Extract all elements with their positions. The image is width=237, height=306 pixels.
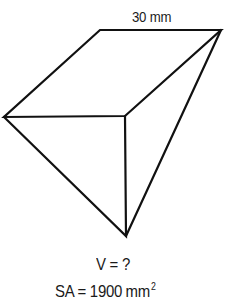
surface-area-given: SA = 1900mm2 bbox=[55, 281, 156, 302]
dimension-label: 30mm bbox=[132, 8, 171, 25]
volume-question: V = ? bbox=[96, 255, 130, 275]
surface-area-unit: mm bbox=[126, 282, 150, 301]
top-face bbox=[4, 30, 221, 117]
dimension-value: 30 bbox=[132, 8, 146, 25]
surface-area-exponent: 2 bbox=[151, 281, 156, 292]
back-right-edge bbox=[126, 30, 221, 236]
surface-area-value: SA = 1900 bbox=[55, 282, 122, 301]
front-face-edges bbox=[4, 116, 126, 236]
dimension-unit: mm bbox=[150, 8, 171, 25]
